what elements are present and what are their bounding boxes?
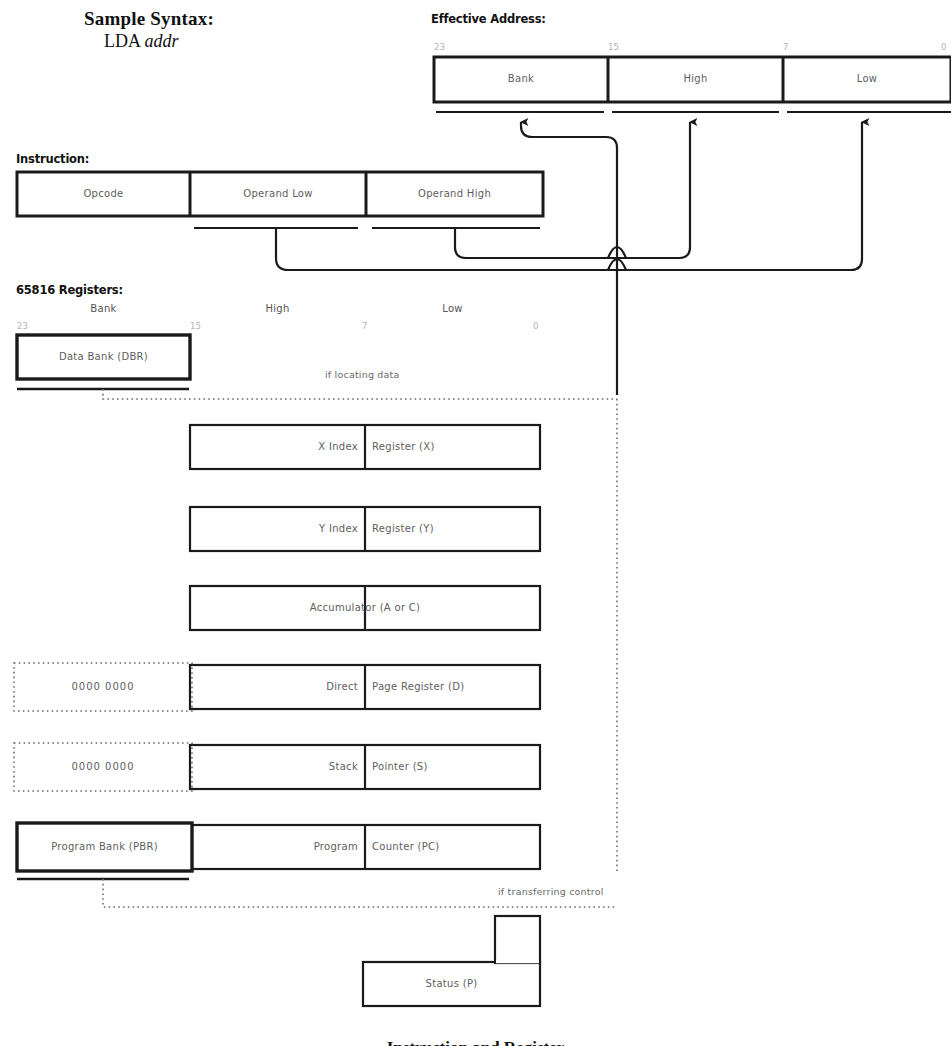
sample-syntax-line: LDA addr — [104, 31, 179, 52]
register-label-stack-pointer-left: Stack — [190, 761, 358, 772]
register-label-y-index-right: Register (Y) — [372, 523, 434, 534]
sample-syntax-operand: addr — [145, 31, 179, 51]
effective-address-box — [434, 57, 951, 112]
figure-caption-clip: Instruction and Register — [0, 1038, 951, 1046]
register-label-stack-pointer-right: Pointer (S) — [372, 761, 428, 772]
instruction-cell-operand-low: Operand Low — [190, 188, 366, 199]
sample-syntax-heading: Sample Syntax: — [84, 8, 214, 30]
register-label-program-counter-right: Counter (PC) — [372, 841, 440, 852]
sample-syntax-mnemonic: LDA — [104, 31, 140, 51]
register-label-program-bank: Program Bank (PBR) — [17, 841, 192, 852]
instruction-box — [17, 172, 543, 228]
effective-address-cell-low: Low — [783, 73, 951, 84]
annotation-if-transferring-control: if transferring control — [498, 886, 604, 897]
register-label-program-counter-left: Program — [190, 841, 358, 852]
effective-address-bit-15: 15 — [608, 42, 619, 52]
register-label-direct-page-left: Direct — [190, 681, 358, 692]
registers-heading: 65816 Registers: — [16, 283, 123, 297]
annotation-if-locating-data: if locating data — [325, 369, 400, 380]
registers-bit-7: 7 — [362, 321, 368, 331]
registers-bit-0: 0 — [533, 321, 539, 331]
effective-address-cell-high: High — [608, 73, 783, 84]
figure-canvas: Sample Syntax: LDA addr Effective Addres… — [0, 0, 951, 1046]
effective-address-bit-0: 0 — [941, 42, 947, 52]
effective-address-cell-bank: Bank — [434, 73, 608, 84]
data-bank-register-box — [17, 335, 190, 389]
effective-address-bit-7: 7 — [783, 42, 789, 52]
registers-bit-15: 15 — [190, 321, 201, 331]
register-prefix-direct-page: 0000 0000 — [14, 681, 192, 692]
register-label-accumulator: Accumulator (A or C) — [190, 602, 540, 613]
registers-column-high: High — [190, 303, 365, 314]
figure-caption: Instruction and Register — [0, 1038, 951, 1046]
register-label-x-index-right: Register (X) — [372, 441, 435, 452]
registers-column-bank: Bank — [17, 303, 190, 314]
register-label-data-bank: Data Bank (DBR) — [17, 351, 190, 362]
instruction-heading: Instruction: — [16, 152, 89, 166]
registers-column-low: Low — [365, 303, 540, 314]
diagram-vector-layer — [0, 0, 951, 1046]
instruction-cell-operand-high: Operand High — [366, 188, 543, 199]
register-label-y-index-left: Y Index — [190, 523, 358, 534]
register-label-direct-page-right: Page Register (D) — [372, 681, 464, 692]
status-register-box — [363, 916, 540, 1006]
register-label-x-index-left: X Index — [190, 441, 358, 452]
registers-bit-23: 23 — [17, 321, 28, 331]
register-prefix-stack-pointer: 0000 0000 — [14, 761, 192, 772]
register-label-status: Status (P) — [363, 978, 540, 989]
effective-address-bit-23: 23 — [434, 42, 445, 52]
instruction-cell-opcode: Opcode — [17, 188, 190, 199]
effective-address-heading: Effective Address: — [431, 12, 546, 26]
